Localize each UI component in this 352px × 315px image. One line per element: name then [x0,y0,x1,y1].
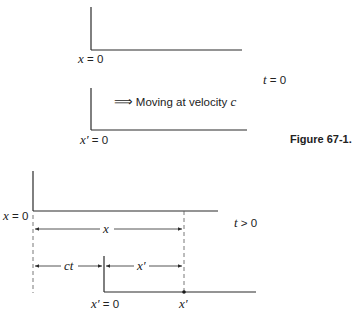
var-x-prime: x′ [80,132,89,147]
label-x-origin-t-gt-0: x = 0 [3,209,28,223]
label-distance-x: x [103,222,109,235]
label-distance-x-prime: x′ [137,259,146,272]
label-time-t0: t = 0 [263,73,286,87]
frame-s-axes-t-gt-0 [33,171,218,211]
label-point-x-prime: x′ [179,297,188,310]
double-arrow-icon: ⟹ [114,94,133,109]
var-x-prime: x′ [91,296,100,311]
figure-caption: Figure 67-1. [290,134,352,145]
motion-text: Moving at velocity [136,96,231,108]
point-x-prime-marker [182,290,186,294]
eq-zero: = 0 [84,53,104,65]
label-moving-velocity: ⟹ Moving at velocity c [114,95,236,109]
var-c: c [230,94,236,109]
label-time-t-gt-0: t > 0 [234,216,257,230]
eq-zero: = 0 [89,134,109,146]
frame-s-axes-t0 [91,7,242,50]
label-distance-ct: ct [64,259,73,272]
label-x-prime-origin-t0: x′ = 0 [80,133,108,147]
gt-zero: > 0 [238,217,258,229]
label-x-prime-origin-t-gt-0: x′ = 0 [91,297,119,311]
label-x-origin-t0: x = 0 [78,52,103,66]
eq-zero: = 0 [9,210,29,222]
eq-zero: = 0 [267,74,287,86]
eq-zero: = 0 [100,298,120,310]
frame-s-prime-axes-t-gt-0 [104,256,256,292]
